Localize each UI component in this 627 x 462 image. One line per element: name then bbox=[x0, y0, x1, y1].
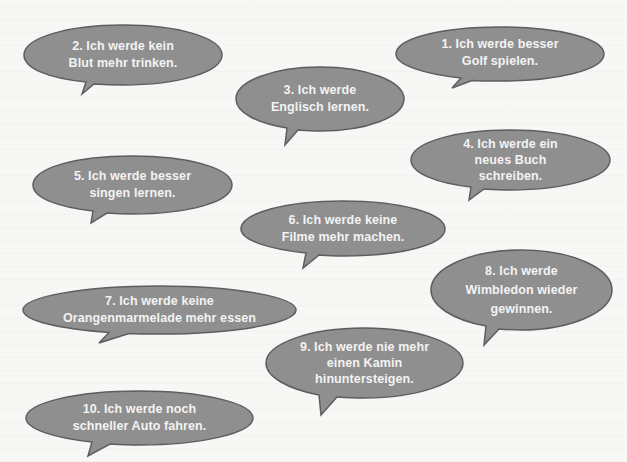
bubble-line: 8. Ich werde bbox=[485, 262, 558, 281]
bubble-text: 8. Ich werde Wimbledon wieder gewinnen. bbox=[429, 260, 614, 320]
bubble-text: 7. Ich werde keine Orangenmarmelade mehr… bbox=[21, 287, 298, 333]
bubble-line: 10. Ich werde noch bbox=[83, 401, 197, 418]
bubble-line: schreiben. bbox=[479, 168, 543, 184]
bubble-line: neues Buch bbox=[475, 152, 547, 168]
speech-bubble-4: 4. Ich werde ein neues Buch schreiben. bbox=[409, 128, 612, 202]
speech-bubble-3: 3. Ich werde Englisch lernen. bbox=[234, 65, 406, 147]
bubble-line: Wimbledon wieder bbox=[466, 281, 578, 300]
bubble-text: 4. Ich werde ein neues Buch schreiben. bbox=[409, 134, 612, 186]
speech-bubble-1: 1. Ich werde besser Golf spielen. bbox=[394, 25, 606, 91]
bubble-line: 9. Ich werde nie mehr bbox=[300, 339, 429, 355]
bubble-line: Orangenmarmelade mehr essen bbox=[63, 310, 256, 327]
bubble-text: 10. Ich werde noch schneller Auto fahren… bbox=[24, 395, 255, 441]
bubble-text: 9. Ich werde nie mehr einen Kamin hinunt… bbox=[264, 334, 465, 392]
bubble-line: 1. Ich werde besser bbox=[441, 36, 558, 53]
speech-bubble-10: 10. Ich werde noch schneller Auto fahren… bbox=[24, 389, 255, 459]
bubble-text: 3. Ich werde Englisch lernen. bbox=[234, 76, 406, 122]
bubble-line: einen Kamin bbox=[327, 355, 402, 371]
bubble-line: 4. Ich werde ein bbox=[463, 136, 558, 152]
bubble-text: 1. Ich werde besser Golf spielen. bbox=[394, 30, 606, 76]
bubble-line: hinuntersteigen. bbox=[315, 371, 414, 387]
bubble-line: 5. Ich werde besser bbox=[74, 168, 191, 185]
bubble-text: 5. Ich werde besser singen lernen. bbox=[31, 162, 234, 208]
bubble-line: Blut mehr trinken. bbox=[69, 55, 178, 72]
bubble-line: Englisch lernen. bbox=[271, 99, 369, 116]
bubble-text: 2. Ich werde kein Blut mehr trinken. bbox=[22, 32, 224, 78]
bubble-text: 6. Ich werde keine Filme mehr machen. bbox=[239, 206, 447, 252]
speech-bubble-5: 5. Ich werde besser singen lernen. bbox=[31, 154, 234, 226]
bubble-line: Golf spielen. bbox=[462, 53, 538, 70]
bubble-line: 2. Ich werde kein bbox=[72, 38, 174, 55]
bubble-line: 6. Ich werde keine bbox=[289, 212, 398, 229]
speech-bubble-9: 9. Ich werde nie mehr einen Kamin hinunt… bbox=[264, 326, 465, 418]
speech-bubble-6: 6. Ich werde keine Filme mehr machen. bbox=[239, 199, 447, 271]
bubble-line: schneller Auto fahren. bbox=[73, 418, 207, 435]
bubble-line: 7. Ich werde keine bbox=[105, 293, 214, 310]
bubble-line: gewinnen. bbox=[490, 300, 552, 319]
bubble-line: 3. Ich werde bbox=[284, 82, 357, 99]
speech-bubble-2: 2. Ich werde kein Blut mehr trinken. bbox=[22, 24, 224, 96]
bubble-line: Filme mehr machen. bbox=[282, 229, 405, 246]
speech-bubble-7: 7. Ich werde keine Orangenmarmelade mehr… bbox=[21, 284, 298, 346]
bubble-line: singen lernen. bbox=[89, 185, 175, 202]
